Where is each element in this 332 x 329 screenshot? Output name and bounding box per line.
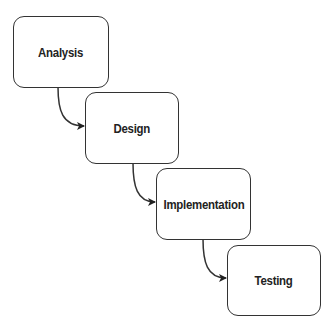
- stage-label: Analysis: [39, 45, 84, 60]
- stage-implementation: Implementation: [156, 168, 251, 240]
- arrow-implementation-to-testing: [203, 239, 226, 278]
- stage-analysis: Analysis: [13, 16, 109, 88]
- stage-label: Implementation: [163, 197, 244, 212]
- arrow-analysis-to-design: [58, 87, 84, 126]
- stage-label: Design: [114, 121, 151, 136]
- stage-design: Design: [85, 92, 179, 164]
- stage-label: Testing: [255, 273, 293, 288]
- arrow-design-to-implementation: [133, 163, 155, 202]
- stage-testing: Testing: [227, 245, 321, 316]
